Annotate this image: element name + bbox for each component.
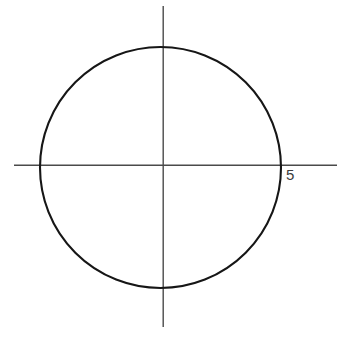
x-intercept-label: 5 (286, 166, 294, 183)
figure-canvas: 5 (0, 0, 349, 337)
circle-plot-svg: 5 (0, 0, 349, 337)
